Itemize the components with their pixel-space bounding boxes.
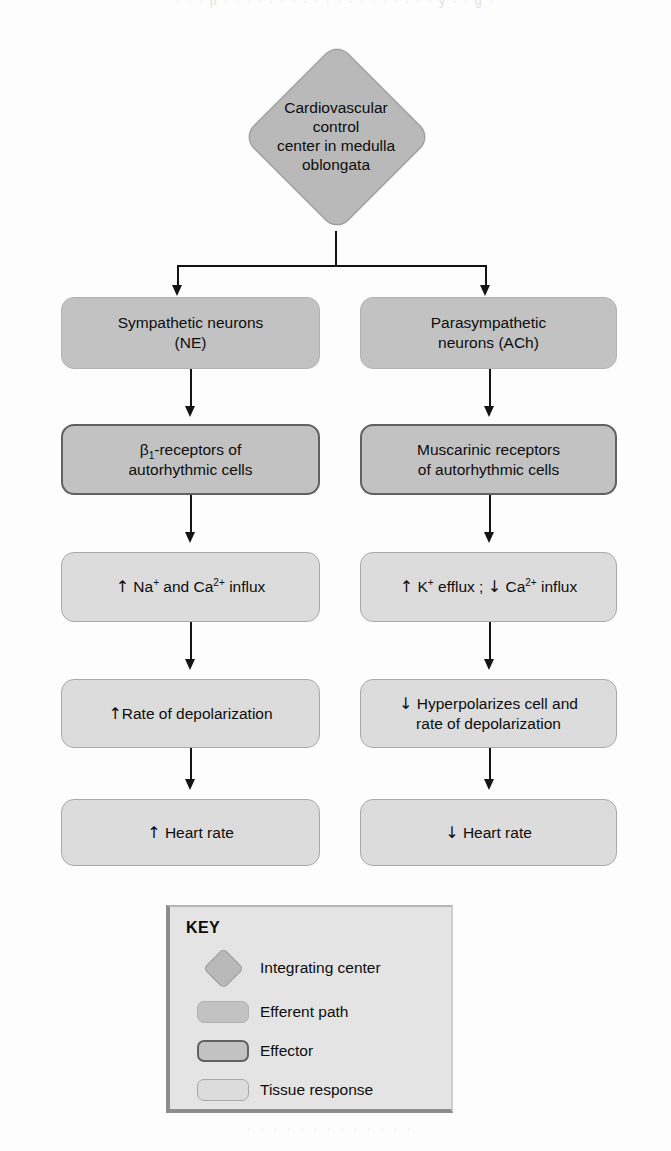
arrowhead-left-2 [185,532,195,543]
flow-box-parasympathetic-neurons: Parasympathetic neurons (ACh) [360,297,617,369]
connector-left-3 [190,622,192,662]
flow-box-sympathetic-neurons: Sympathetic neurons (NE) [61,297,320,369]
page-bleedthrough-top: · · · p · · · · · · · · · · · · · · · · … [0,0,671,12]
flow-box-text: ↓ Heart rate [445,823,532,843]
arrowhead-right-2 [484,532,494,543]
key-swatch-cell [192,954,254,983]
flow-box-hyperpolarizes-cell: ↓ Hyperpolarizes cell andrate of depolar… [360,679,617,748]
page-bleedthrough-bottom: · · · · · · · · · · · · · [30,1122,630,1136]
key-item-label: Integrating center [260,959,381,977]
key-item-label: Effector [260,1042,313,1060]
connector-right-2 [489,495,491,535]
flow-box-muscarinic-receptors: Muscarinic receptors of autorhythmic cel… [360,424,617,495]
key-item-efferent-path: Efferent path [192,993,348,1031]
key-swatch-cell [192,1040,254,1062]
diamond-swatch-icon [202,947,243,988]
efferent-swatch-icon [197,1001,249,1023]
flow-box-text: ↑ Na+ and Ca2+ influx [116,577,266,597]
key-legend-panel: KEY Integrating center Efferent path Eff… [166,905,453,1113]
flow-box-heart-rate-decrease: ↓ Heart rate [360,799,617,866]
flow-box-heart-rate-increase: ↑ Heart rate [61,799,320,866]
arrowhead-left-3 [185,659,195,670]
arrowhead-right-4 [484,779,494,790]
connector-right-1 [489,369,491,409]
arrowhead-right-1 [484,406,494,417]
tissue-swatch-icon [197,1079,249,1101]
integrating-center-node: Cardiovascular control center in medulla… [243,41,429,231]
arrowhead-to-parasympathetic [480,285,490,296]
arrowhead-left-4 [185,779,195,790]
flow-box-text: ↓ Hyperpolarizes cell andrate of depolar… [399,694,578,734]
key-swatch-cell [192,1079,254,1101]
flow-box-text: ↑ K+ efflux ; ↓ Ca2+ influx [400,577,577,597]
connector-split-horizontal [177,265,486,267]
key-item-label: Tissue response [260,1081,373,1099]
connector-stem-vertical [335,231,337,266]
flow-box-text: β1-receptors ofautorhythmic cells [128,440,252,480]
flow-box-beta1-receptors: β1-receptors ofautorhythmic cells [61,424,320,495]
flow-box-text: ↑Rate of depolarization [108,704,272,724]
diamond-shape-icon [242,42,432,232]
key-item-tissue-response: Tissue response [192,1071,373,1109]
diagram-canvas: · · · p · · · · · · · · · · · · · · · · … [0,0,671,1151]
arrowhead-left-1 [185,406,195,417]
key-swatch-cell [192,1001,254,1023]
connector-left-2 [190,495,192,535]
effector-swatch-icon [197,1040,249,1062]
connector-left-1 [190,369,192,409]
key-title: KEY [186,919,220,937]
flow-box-rate-of-depolarization: ↑Rate of depolarization [61,679,320,748]
arrowhead-to-sympathetic [172,285,182,296]
flow-box-text: ↑ Heart rate [147,823,234,843]
connector-right-3 [489,622,491,662]
flow-box-na-ca-influx: ↑ Na+ and Ca2+ influx [61,552,320,622]
key-item-label: Efferent path [260,1003,348,1021]
arrowhead-right-3 [484,659,494,670]
key-item-effector: Effector [192,1032,313,1070]
key-item-integrating-center: Integrating center [192,949,381,987]
flow-box-k-efflux-ca-influx: ↑ K+ efflux ; ↓ Ca2+ influx [360,552,617,622]
